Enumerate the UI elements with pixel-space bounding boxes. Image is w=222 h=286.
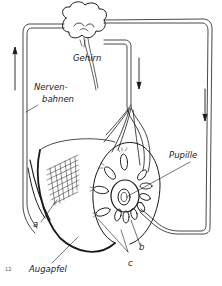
label-gehirn: Gehirn [73, 54, 101, 63]
label-pupille: Pupille [169, 151, 197, 160]
nerve-path-center [104, 40, 150, 172]
eye-nerve-diagram [0, 0, 222, 286]
figure-number: 12 [5, 267, 11, 272]
arrow-down-icon [137, 58, 141, 89]
label-nerven: Nerven- [34, 83, 68, 92]
arrow-down-icon [203, 89, 207, 121]
label-bahnen: bahnen [42, 95, 74, 104]
label-a: a [33, 220, 38, 229]
retina-mesh [47, 155, 79, 205]
brain-shape [62, 2, 106, 90]
pupil-shape [111, 180, 139, 212]
label-augapfel: Augapfel [29, 265, 67, 274]
label-c: c [128, 259, 133, 268]
arrow-up-icon [13, 47, 17, 90]
label-b: b [139, 243, 144, 252]
